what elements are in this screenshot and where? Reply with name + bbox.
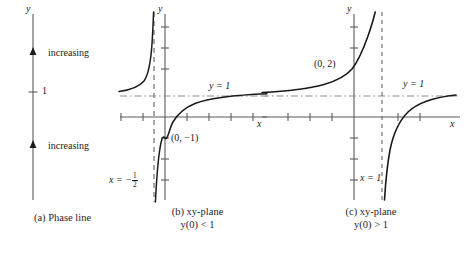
panel-b-curve-right-branch — [155, 94, 267, 202]
panel-a-caption-line1: (a) Phase line — [0, 212, 125, 225]
panel-b-caption-line2: y(0) < 1 — [125, 219, 270, 232]
panel-b-initial-point-label: (0, −1) — [171, 132, 198, 143]
panel-c-curve-left-branch — [262, 12, 375, 93]
phase-line-label-increasing-lower: increasing — [48, 140, 89, 151]
panel-b-graphic — [125, 0, 270, 205]
phase-line-graphic — [0, 0, 125, 205]
panel-c-vertical-asymptote-label: x = 1 — [360, 172, 381, 183]
panel-b-asymptote-denominator: 2 — [132, 180, 138, 189]
panel-b-vertical-asymptote-prefix: x = − — [109, 174, 132, 185]
panel-c-caption-line1: (c) xy-plane — [270, 206, 472, 219]
panel-b-y-axis-label: y — [158, 3, 162, 14]
panel-b-caption: (b) xy-plane y(0) < 1 — [125, 206, 270, 231]
phase-line-and-solution-curves-figure: y 1 increasing increasing (a) Phase line — [0, 0, 472, 253]
panel-b-horizontal-asymptote-label: y = 1 — [209, 80, 230, 91]
phase-line-tick-label-1: 1 — [42, 85, 47, 96]
phase-line-y-axis-label: y — [26, 3, 30, 14]
panel-b-vertical-asymptote-label: x = −12 — [109, 172, 138, 188]
panel-c-xy-plane: y x y = 1 x = 1 (0, 2) (c) xy-plane y(0)… — [270, 0, 472, 253]
panel-b-caption-line1: (b) xy-plane — [125, 206, 270, 219]
panel-c-caption: (c) xy-plane y(0) > 1 — [270, 206, 472, 231]
panel-b-curve-left-branch — [119, 12, 154, 92]
panel-a-caption: (a) Phase line — [0, 212, 125, 225]
panel-b-x-axis-label: x — [257, 118, 261, 129]
panel-c-horizontal-asymptote-label: y = 1 — [403, 78, 424, 89]
panel-c-x-axis-label: x — [450, 118, 454, 129]
phase-arrow-up-upper — [30, 47, 37, 55]
panel-c-caption-line2: y(0) > 1 — [270, 219, 472, 232]
panel-b-xy-plane: y x y = 1 x = −12 (0, −1) (b) xy-plane y… — [125, 0, 270, 253]
phase-line-label-increasing-upper: increasing — [48, 47, 89, 58]
panel-c-curve-right-branch — [385, 95, 457, 200]
panel-a-phase-line: y 1 increasing increasing (a) Phase line — [0, 0, 125, 253]
panel-c-initial-point-label: (0, 2) — [314, 58, 336, 69]
phase-arrow-up-lower — [30, 140, 37, 148]
panel-c-y-axis-label: y — [347, 3, 351, 14]
panel-b-asymptote-numerator: 1 — [132, 172, 138, 180]
panel-b-vertical-asymptote-fraction: 12 — [132, 172, 138, 188]
